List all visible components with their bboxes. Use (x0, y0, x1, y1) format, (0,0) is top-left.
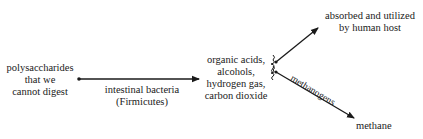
node-polysaccharides-line-2: that we (2, 74, 78, 86)
node-products-line-1: organic acids, (200, 54, 272, 66)
arrow-main (77, 77, 199, 81)
node-products-line-4: carbon dioxide (200, 90, 272, 102)
node-products-line-3: hydrogen gas, (200, 78, 272, 90)
node-polysaccharides-line-1: polysaccharides (2, 62, 78, 74)
label-intestinal-bacteria: intestinal bacteria (Firmicutes) (92, 84, 192, 108)
node-absorbed-line-1: absorbed and utilized (318, 10, 422, 22)
node-products-line-2: alcohols, (200, 66, 272, 78)
node-methane: methane (356, 120, 406, 132)
node-products: organic acids, alcohols, hydrogen gas, c… (200, 54, 272, 102)
label-intestinal-bacteria-line-2: (Firmicutes) (92, 96, 192, 108)
node-polysaccharides-line-3: cannot digest (2, 86, 78, 98)
node-polysaccharides: polysaccharides that we cannot digest (2, 62, 78, 98)
label-intestinal-bacteria-line-1: intestinal bacteria (92, 84, 192, 96)
node-absorbed-line-2: by human host (318, 22, 422, 34)
arrow-absorbed (274, 28, 318, 64)
node-methane-label: methane (356, 120, 392, 131)
node-absorbed: absorbed and utilized by human host (318, 10, 422, 34)
